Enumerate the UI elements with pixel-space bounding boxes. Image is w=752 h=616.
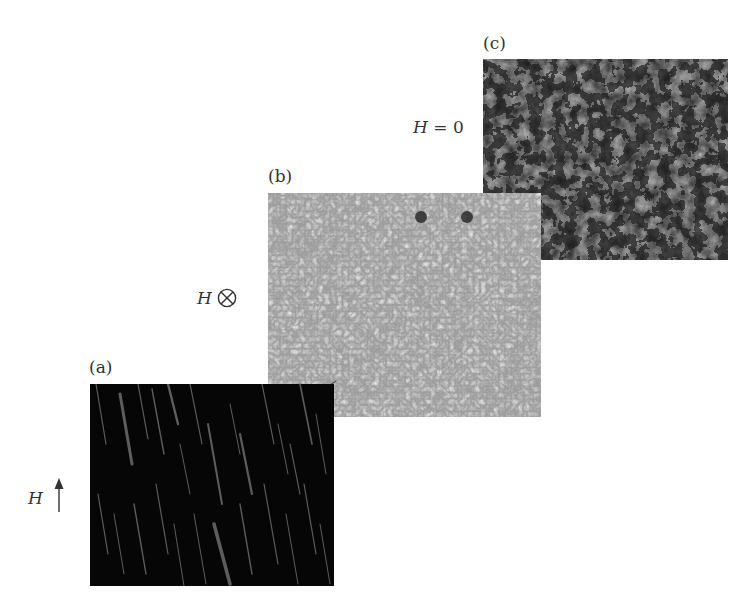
into-page-icon [217,288,237,308]
panel-b-label: (b) [268,166,292,186]
field-symbol: H [197,288,212,308]
stripe-domain-texture [90,384,334,586]
dark-spot [415,211,427,223]
field-annotation-b: H [197,288,237,308]
panel-c-label: (c) [483,33,506,53]
field-symbol: H [413,117,428,137]
field-annotation-c: H = 0 [413,117,464,137]
field-relation: = [433,117,447,137]
arrow-up-icon [53,478,65,512]
panel-a-label: (a) [89,357,112,377]
micrograph-panel-a [90,384,334,586]
field-value: 0 [453,117,464,137]
field-annotation-a: H [28,478,65,512]
dark-spot [461,211,473,223]
field-symbol: H [28,488,43,508]
